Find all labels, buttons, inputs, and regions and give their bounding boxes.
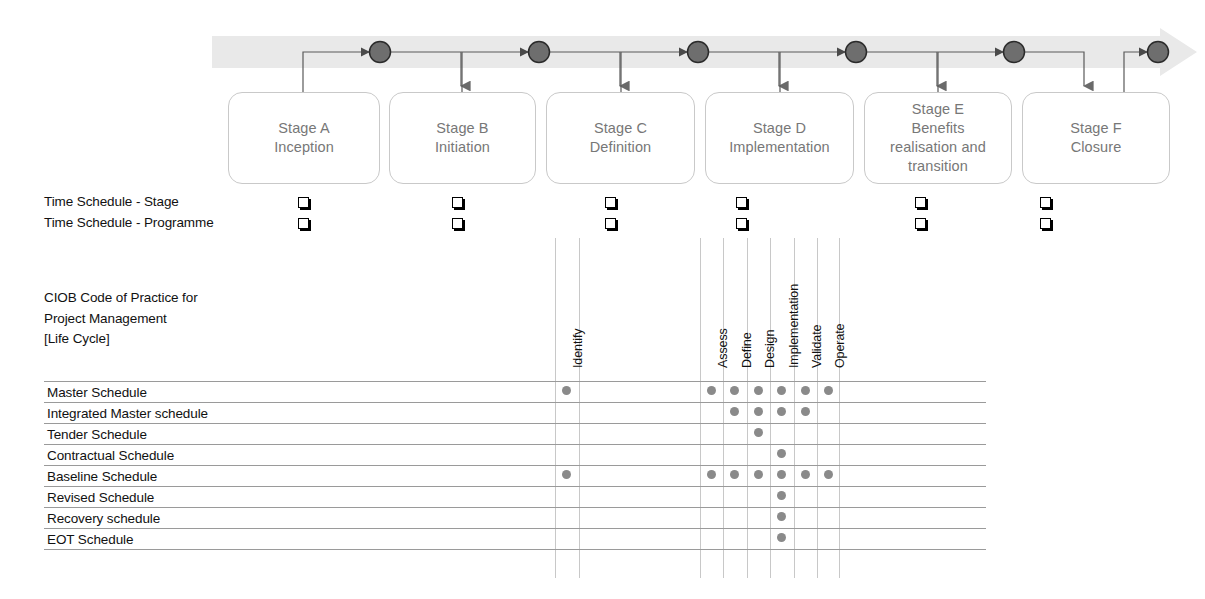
- matrix-dot-integrated-master-schedule-validate: [801, 407, 810, 416]
- matrix-dot-master-schedule-operate: [824, 386, 833, 395]
- matrix-dot-baseline-schedule-design: [754, 470, 763, 479]
- matrix-dot-layer: [0, 0, 1205, 599]
- matrix-dot-baseline-schedule-operate: [824, 470, 833, 479]
- matrix-dot-baseline-schedule-identify: [562, 470, 571, 479]
- matrix-dot-tender-schedule-design: [754, 428, 763, 437]
- matrix-dot-master-schedule-define: [730, 386, 739, 395]
- matrix-dot-master-schedule-validate: [801, 386, 810, 395]
- matrix-dot-contractual-schedule-implementation: [777, 449, 786, 458]
- matrix-dot-integrated-master-schedule-design: [754, 407, 763, 416]
- matrix-dot-eot-schedule-implementation: [777, 533, 786, 542]
- matrix-dot-master-schedule-assess: [707, 386, 716, 395]
- matrix-dot-revised-schedule-implementation: [777, 491, 786, 500]
- matrix-dot-baseline-schedule-define: [730, 470, 739, 479]
- matrix-dot-baseline-schedule-assess: [707, 470, 716, 479]
- matrix-dot-master-schedule-identify: [562, 386, 571, 395]
- matrix-dot-recovery-schedule-implementation: [777, 512, 786, 521]
- matrix-dot-master-schedule-implementation: [777, 386, 786, 395]
- matrix-dot-master-schedule-design: [754, 386, 763, 395]
- matrix-dot-baseline-schedule-implementation: [777, 470, 786, 479]
- matrix-dot-integrated-master-schedule-define: [730, 407, 739, 416]
- diagram-canvas: Stage A Inception Stage B Initiation Sta…: [0, 0, 1205, 599]
- matrix-dot-integrated-master-schedule-implementation: [777, 407, 786, 416]
- matrix-dot-baseline-schedule-validate: [801, 470, 810, 479]
